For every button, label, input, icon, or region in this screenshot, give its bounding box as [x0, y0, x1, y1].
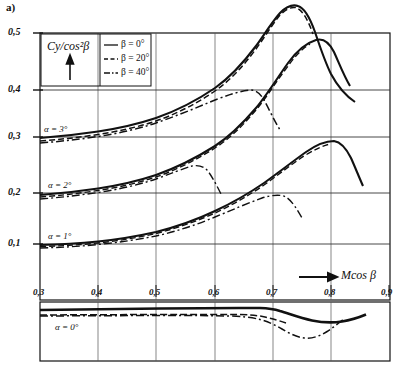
figure-container: a) 0,5 0,4 0,3 0,2 0,1 0,3 0,4 0,5 0,6 0…	[0, 0, 403, 380]
y-tick-label-1: 0,4	[8, 84, 21, 94]
annotation-alpha1: α = 1°	[48, 232, 71, 241]
curve-group-alpha2	[40, 40, 350, 200]
x-tick-label-3: 0,6	[208, 288, 219, 297]
curve-alpha3-beta20	[40, 7, 313, 141]
curve-group-alpha0	[40, 308, 366, 338]
x-tick-label-6: 0,9	[381, 288, 392, 297]
y-tick-label-3: 0,2	[8, 187, 21, 197]
x-axis-title: Mcos β	[341, 269, 376, 281]
y-tick-label-2: 0,3	[8, 131, 21, 141]
y-axis-title: Cy/cos²β	[47, 40, 89, 52]
annotation-alpha3: α = 3°	[44, 125, 67, 134]
x-tick-label-2: 0,5	[149, 288, 160, 297]
curve-alpha2-beta20	[40, 44, 310, 197]
legend-label-beta20: β = 20°	[121, 54, 149, 64]
curve-alpha1-beta40	[40, 195, 302, 248]
x-tick-label-4: 0,7	[266, 288, 277, 297]
annotation-alpha2: α = 2°	[48, 181, 71, 190]
y-axis-arrow-icon	[67, 55, 74, 80]
x-tick-marks	[98, 285, 389, 297]
x-tick-label-0: 0,3	[33, 288, 44, 297]
x-tick-label-1: 0,4	[91, 288, 102, 297]
legend-sample-lines	[104, 45, 118, 73]
gridlines-vertical-lower	[98, 302, 331, 361]
curve-alpha0-beta40	[40, 316, 345, 339]
y-tick-label-0: 0,5	[8, 27, 21, 37]
x-tick-label-5: 0,8	[324, 288, 335, 297]
annotation-alpha0: α = 0°	[55, 323, 78, 332]
legend-label-beta40: β = 40°	[121, 68, 149, 78]
curve-alpha2-beta0	[40, 40, 350, 196]
legend-label-beta0: β = 0°	[121, 40, 145, 50]
y-tick-label-4: 0,1	[8, 238, 21, 248]
y-axis-title-text: Cy/cos²β	[47, 39, 89, 53]
curve-group-alpha3	[40, 5, 355, 143]
panel-label: a)	[6, 2, 15, 13]
x-axis-arrow-icon	[299, 273, 337, 281]
curve-alpha3-beta0	[40, 5, 355, 138]
